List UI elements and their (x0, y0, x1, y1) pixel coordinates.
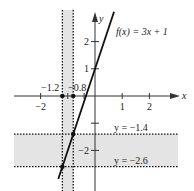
function-chart: −21221−2 f(x) = 3x + 1 x y −1.2 −0.8 y =… (0, 0, 194, 191)
function-label: f(x) = 3x + 1 (116, 26, 168, 38)
y-tick-label: −2 (78, 145, 89, 156)
data-point (71, 94, 76, 99)
x-tick-label: −2 (35, 101, 46, 112)
y-tick-label: 1 (84, 63, 89, 74)
data-point (60, 164, 65, 169)
x-axis-arrow (170, 93, 180, 99)
band-label-right: −0.8 (68, 82, 86, 93)
data-point (71, 132, 76, 137)
band-label-left: −1.2 (41, 82, 59, 93)
y-axis-label: y (98, 13, 104, 24)
x-tick-label: 1 (120, 101, 125, 112)
data-point (60, 94, 65, 99)
hline-label-upper: y = −1.4 (114, 122, 148, 133)
x-axis-label: x (181, 90, 187, 101)
hline-label-lower: y = −2.6 (114, 155, 148, 166)
y-tick-label: 2 (84, 36, 89, 47)
y-axis-arrow (92, 12, 98, 22)
x-tick-label: 2 (147, 101, 152, 112)
